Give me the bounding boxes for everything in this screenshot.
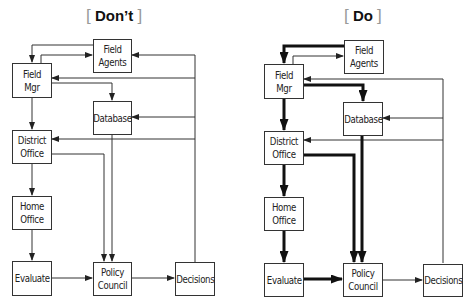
right-field-mgr-box: Field Mgr (264, 64, 304, 99)
right-decisions-box: Decisions (423, 264, 463, 297)
left-evaluate-box: Evaluate (12, 261, 52, 296)
dont-title-text: Don’t (95, 7, 133, 24)
left-decisions-box: Decisions (175, 262, 215, 296)
left-policy-council-box: Policy Council (93, 262, 132, 296)
right-database-box: Database (343, 102, 383, 136)
right-district-office-box: District Office (264, 131, 304, 165)
right-field-agents-box: Field Agents (344, 40, 384, 74)
left-district-office-box: District Office (12, 130, 52, 164)
right-evaluate-box: Evaluate (264, 263, 304, 297)
right-thin-connectors (293, 56, 443, 280)
do-title-text: Do (353, 7, 373, 24)
do-title: [ Do ] (344, 6, 382, 26)
left-field-agents-box: Field Agents (93, 39, 132, 73)
left-field-mgr-box: Field Mgr (12, 63, 52, 98)
dont-title: [ Don’t ] (86, 6, 142, 26)
left-connectors (32, 45, 195, 278)
left-database-box: Database (93, 101, 132, 135)
connector-layer (0, 0, 473, 307)
right-home-office-box: Home Office (264, 197, 304, 231)
left-home-office-box: Home Office (12, 196, 52, 230)
right-policy-council-box: Policy Council (343, 263, 383, 297)
